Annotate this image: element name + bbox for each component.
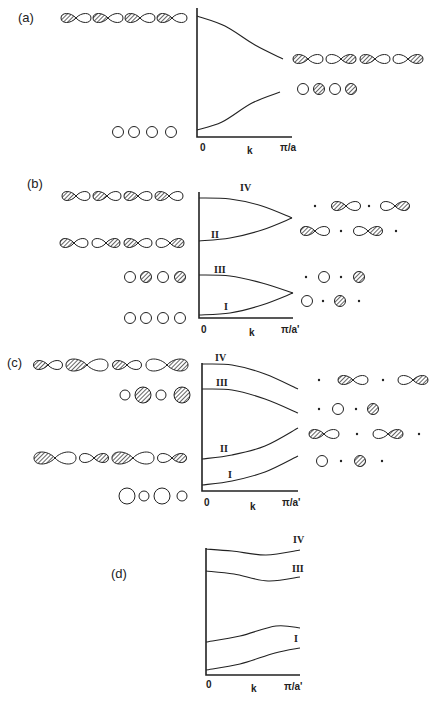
band-curve-iv	[206, 549, 300, 555]
s-orbital-hatched-icon	[135, 387, 151, 403]
orbital-row-c-left	[119, 488, 187, 504]
s-orbital-hatched-icon	[175, 272, 186, 283]
p-orbital-left-shaded-icon	[157, 14, 187, 23]
s-orbital-open-icon	[317, 456, 328, 467]
axis-tick-label: π/a'	[281, 324, 299, 335]
band-curve-ii	[202, 428, 298, 459]
p-orbital-left-shaded-icon	[338, 376, 368, 385]
band-label: II	[211, 229, 219, 240]
node-dot-icon	[340, 460, 342, 462]
axis-tick-label: k	[251, 683, 257, 694]
p-orbital-left-shaded-icon	[113, 361, 142, 370]
s-orbital-open-icon	[119, 488, 135, 504]
p-orbital-right-shaded-icon	[146, 359, 188, 371]
p-orbital-left-shaded-icon	[360, 55, 390, 64]
node-dot-icon	[358, 300, 360, 302]
s-orbital-open-icon	[298, 84, 309, 95]
p-orbital-left-shaded-icon	[66, 359, 108, 371]
p-orbital-right-shaded-icon	[92, 239, 120, 248]
axis-tick-label: 0	[204, 497, 210, 508]
band-label: I	[224, 301, 228, 312]
panel-label: (a)	[18, 10, 34, 25]
band-label: III	[216, 377, 228, 388]
p-orbital-left-shaded-icon	[124, 192, 152, 201]
s-orbital-hatched-icon	[335, 296, 346, 307]
s-orbital-open-icon	[129, 127, 140, 138]
p-orbital-left-shaded-icon	[93, 192, 121, 201]
band-diagram-canvas: (a)0kπ/a(b)0kπ/a'IVIIIIII(c)0kπ/a'IVIIII…	[0, 0, 442, 701]
s-orbital-open-icon	[156, 390, 166, 400]
band-curve-i	[202, 456, 298, 485]
orbital-row-a-left	[113, 127, 177, 138]
s-orbital-open-icon	[139, 491, 149, 501]
orbital-row-a-left	[61, 14, 187, 23]
panels-layer: (a)0kπ/a(b)0kπ/a'IVIIIIII(c)0kπ/a'IVIIII…	[7, 8, 305, 694]
s-orbital-hatched-icon	[174, 387, 190, 403]
p-orbital-right-shaded-icon	[80, 454, 109, 463]
p-orbital-right-shaded-icon	[373, 430, 403, 439]
panel-c: (c)0kπ/a'IVIIIIII	[7, 352, 300, 512]
s-orbital-open-icon	[333, 404, 344, 415]
s-orbital-hatched-icon	[368, 404, 379, 415]
orbital-row-c-right	[318, 376, 428, 385]
band-curve-lower	[197, 92, 280, 130]
node-dot-icon	[356, 433, 358, 435]
node-dot-icon	[418, 433, 420, 435]
s-orbital-hatched-icon	[141, 272, 152, 283]
p-orbital-right-shaded-icon	[156, 239, 184, 248]
s-orbital-open-icon	[158, 313, 169, 324]
s-orbital-open-icon	[141, 313, 152, 324]
orbital-row-b-left	[125, 272, 186, 283]
axis-tick-label: k	[250, 501, 256, 512]
axis-tick-label: 0	[206, 679, 212, 690]
p-orbital-left-shaded-icon	[332, 202, 361, 211]
s-orbital-open-icon	[125, 313, 136, 324]
p-orbital-left-shaded-icon	[124, 239, 152, 248]
axis-tick-label: π/a	[280, 142, 296, 153]
panel-label: (b)	[27, 176, 43, 191]
orbital-row-b-left	[62, 192, 183, 201]
axis-tick-label: π/a'	[282, 497, 300, 508]
axis-tick-label: 0	[201, 324, 207, 335]
s-orbital-hatched-icon	[354, 272, 365, 283]
band-label: IV	[215, 352, 227, 363]
p-orbital-left-shaded-icon	[301, 227, 330, 236]
axis-tick-label: π/a'	[284, 681, 302, 692]
orbital-row-a-right	[298, 84, 357, 95]
band-curve-iii	[206, 571, 300, 581]
axis-lines	[197, 8, 292, 137]
orbital-row-c-left	[120, 387, 190, 403]
panel-label: (c)	[7, 355, 22, 370]
band-curve-upper	[197, 16, 283, 59]
s-orbital-open-icon	[166, 127, 177, 138]
p-orbital-left-shaded-icon	[93, 14, 123, 23]
node-dot-icon	[322, 300, 324, 302]
orbital-row-c-left	[34, 452, 187, 464]
s-orbital-open-icon	[125, 272, 136, 283]
node-dot-icon	[382, 379, 384, 381]
axis-tick-label: 0	[200, 142, 206, 153]
node-dot-icon	[340, 230, 342, 232]
p-orbital-left-shaded-icon	[125, 14, 155, 23]
node-dot-icon	[318, 379, 320, 381]
s-orbital-open-icon	[319, 272, 330, 283]
p-orbital-right-shaded-icon	[381, 202, 410, 211]
band-structure-figure: (a)0kπ/a(b)0kπ/a'IVIIIIII(c)0kπ/a'IVIIII…	[0, 0, 442, 701]
p-orbital-left-shaded-icon	[309, 430, 339, 439]
band-label: IV	[293, 534, 305, 545]
p-orbital-left-shaded-icon	[293, 55, 323, 64]
s-orbital-open-icon	[175, 313, 186, 324]
p-orbital-right-shaded-icon	[393, 55, 423, 64]
s-orbital-open-icon	[177, 491, 187, 501]
orbital-row-b-right	[314, 202, 410, 211]
orbital-row-a-right	[293, 55, 423, 64]
orbital-row-c-left	[34, 359, 189, 371]
p-orbital-left-shaded-icon	[61, 14, 91, 23]
p-orbital-left-shaded-icon	[62, 192, 90, 201]
node-dot-icon	[340, 276, 342, 278]
orbital-row-c-right	[317, 456, 384, 467]
s-orbital-open-icon	[302, 296, 313, 307]
band-label: I	[228, 469, 232, 480]
orbital-row-b-right	[302, 296, 361, 307]
p-orbital-right-shaded-icon	[398, 376, 428, 385]
